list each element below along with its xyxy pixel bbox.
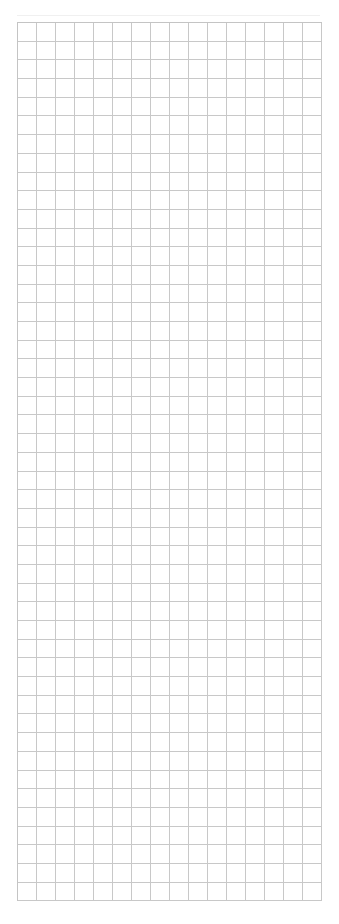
grid-cell[interactable] bbox=[227, 658, 246, 677]
grid-cell[interactable] bbox=[284, 341, 303, 360]
grid-cell[interactable] bbox=[189, 285, 208, 304]
grid-cell[interactable] bbox=[113, 864, 132, 883]
grid-cell[interactable] bbox=[113, 696, 132, 715]
grid-cell[interactable] bbox=[227, 546, 246, 565]
grid-cell[interactable] bbox=[75, 415, 94, 434]
grid-cell[interactable] bbox=[246, 789, 265, 808]
grid-cell[interactable] bbox=[303, 42, 322, 61]
grid-cell[interactable] bbox=[18, 359, 37, 378]
grid-cell[interactable] bbox=[227, 845, 246, 864]
grid-cell[interactable] bbox=[284, 602, 303, 621]
grid-cell[interactable] bbox=[151, 883, 170, 902]
grid-cell[interactable] bbox=[75, 191, 94, 210]
grid-cell[interactable] bbox=[94, 378, 113, 397]
grid-cell[interactable] bbox=[94, 714, 113, 733]
grid-cell[interactable] bbox=[151, 23, 170, 42]
grid-cell[interactable] bbox=[132, 453, 151, 472]
grid-cell[interactable] bbox=[94, 116, 113, 135]
grid-cell[interactable] bbox=[170, 285, 189, 304]
grid-cell[interactable] bbox=[94, 733, 113, 752]
grid-cell[interactable] bbox=[151, 640, 170, 659]
grid-cell[interactable] bbox=[227, 266, 246, 285]
grid-cell[interactable] bbox=[284, 60, 303, 79]
grid-cell[interactable] bbox=[94, 453, 113, 472]
grid-cell[interactable] bbox=[94, 864, 113, 883]
grid-cell[interactable] bbox=[227, 116, 246, 135]
grid-cell[interactable] bbox=[189, 229, 208, 248]
grid-cell[interactable] bbox=[227, 490, 246, 509]
grid-cell[interactable] bbox=[170, 415, 189, 434]
grid-cell[interactable] bbox=[208, 752, 227, 771]
grid-cell[interactable] bbox=[37, 322, 56, 341]
grid-cell[interactable] bbox=[303, 864, 322, 883]
grid-cell[interactable] bbox=[189, 845, 208, 864]
grid-cell[interactable] bbox=[284, 546, 303, 565]
grid-cell[interactable] bbox=[75, 696, 94, 715]
grid-cell[interactable] bbox=[75, 658, 94, 677]
grid-cell[interactable] bbox=[303, 135, 322, 154]
grid-cell[interactable] bbox=[18, 303, 37, 322]
grid-cell[interactable] bbox=[208, 266, 227, 285]
grid-cell[interactable] bbox=[37, 789, 56, 808]
grid-cell[interactable] bbox=[151, 565, 170, 584]
grid-cell[interactable] bbox=[56, 60, 75, 79]
grid-cell[interactable] bbox=[18, 397, 37, 416]
grid-cell[interactable] bbox=[284, 434, 303, 453]
grid-cell[interactable] bbox=[132, 509, 151, 528]
grid-cell[interactable] bbox=[170, 771, 189, 790]
grid-cell[interactable] bbox=[227, 827, 246, 846]
grid-cell[interactable] bbox=[56, 883, 75, 902]
grid-cell[interactable] bbox=[189, 808, 208, 827]
grid-cell[interactable] bbox=[113, 490, 132, 509]
grid-cell[interactable] bbox=[208, 378, 227, 397]
grid-cell[interactable] bbox=[132, 546, 151, 565]
grid-cell[interactable] bbox=[37, 116, 56, 135]
grid-cell[interactable] bbox=[113, 827, 132, 846]
grid-cell[interactable] bbox=[94, 42, 113, 61]
grid-cell[interactable] bbox=[208, 23, 227, 42]
grid-cell[interactable] bbox=[265, 677, 284, 696]
grid-cell[interactable] bbox=[56, 864, 75, 883]
grid-cell[interactable] bbox=[151, 453, 170, 472]
grid-cell[interactable] bbox=[246, 752, 265, 771]
grid-cell[interactable] bbox=[284, 116, 303, 135]
grid-cell[interactable] bbox=[56, 378, 75, 397]
grid-cell[interactable] bbox=[113, 60, 132, 79]
grid-cell[interactable] bbox=[94, 621, 113, 640]
grid-cell[interactable] bbox=[227, 359, 246, 378]
grid-cell[interactable] bbox=[303, 733, 322, 752]
grid-cell[interactable] bbox=[151, 359, 170, 378]
grid-cell[interactable] bbox=[151, 584, 170, 603]
grid-cell[interactable] bbox=[284, 883, 303, 902]
grid-cell[interactable] bbox=[75, 472, 94, 491]
grid-cell[interactable] bbox=[189, 341, 208, 360]
grid-cell[interactable] bbox=[18, 883, 37, 902]
grid-cell[interactable] bbox=[75, 864, 94, 883]
grid-cell[interactable] bbox=[132, 359, 151, 378]
grid-cell[interactable] bbox=[94, 23, 113, 42]
grid-cell[interactable] bbox=[265, 210, 284, 229]
grid-cell[interactable] bbox=[265, 415, 284, 434]
grid-cell[interactable] bbox=[246, 883, 265, 902]
grid-cell[interactable] bbox=[151, 135, 170, 154]
grid-cell[interactable] bbox=[18, 453, 37, 472]
grid-cell[interactable] bbox=[132, 658, 151, 677]
grid-cell[interactable] bbox=[189, 210, 208, 229]
grid-cell[interactable] bbox=[18, 23, 37, 42]
grid-cell[interactable] bbox=[265, 378, 284, 397]
grid-cell[interactable] bbox=[189, 714, 208, 733]
grid-cell[interactable] bbox=[94, 415, 113, 434]
grid-cell[interactable] bbox=[246, 42, 265, 61]
grid-cell[interactable] bbox=[246, 341, 265, 360]
grid-cell[interactable] bbox=[132, 752, 151, 771]
grid-cell[interactable] bbox=[94, 565, 113, 584]
grid-cell[interactable] bbox=[151, 808, 170, 827]
grid-cell[interactable] bbox=[303, 528, 322, 547]
grid-cell[interactable] bbox=[113, 154, 132, 173]
grid-cell[interactable] bbox=[303, 98, 322, 117]
grid-cell[interactable] bbox=[37, 98, 56, 117]
grid-cell[interactable] bbox=[265, 359, 284, 378]
grid-cell[interactable] bbox=[37, 696, 56, 715]
grid-cell[interactable] bbox=[227, 771, 246, 790]
grid-cell[interactable] bbox=[75, 845, 94, 864]
